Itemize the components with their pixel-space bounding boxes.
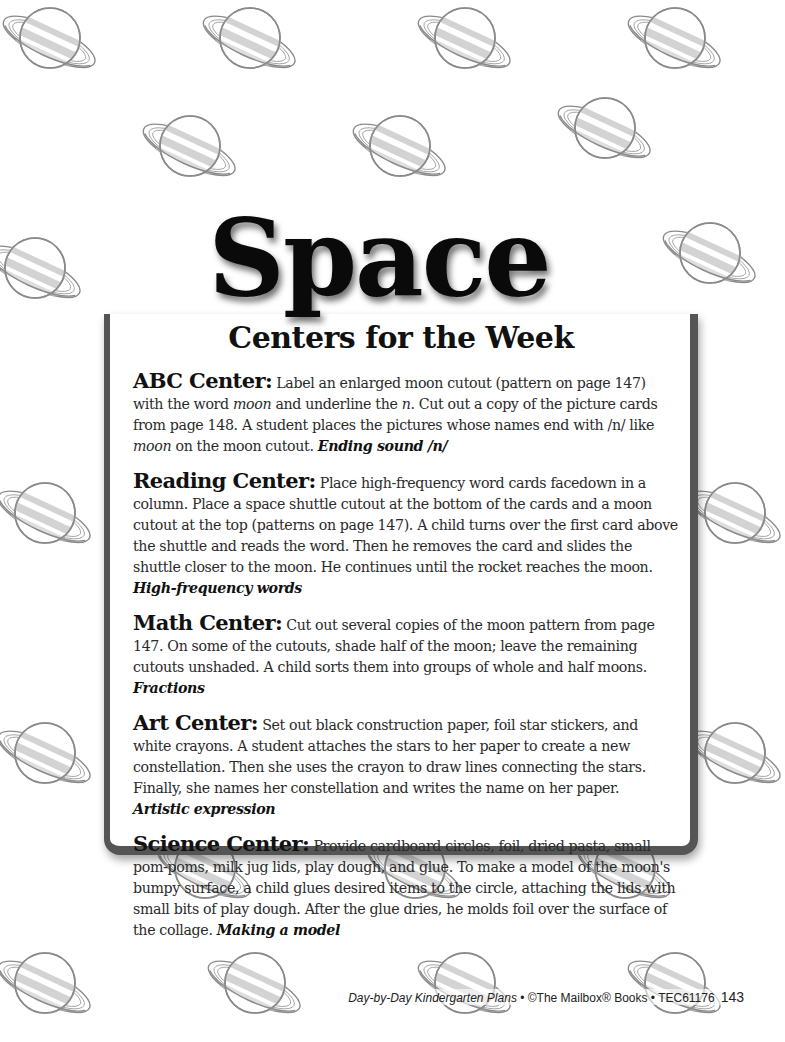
ringed-planet-icon — [0, 705, 100, 805]
ringed-planet-icon — [0, 465, 100, 565]
skill-label: Ending sound /n/ — [318, 438, 448, 454]
page-number: 143 — [721, 989, 744, 1005]
center-heading: Math Center: — [133, 610, 282, 635]
ringed-planet-icon — [195, 0, 305, 90]
abc-center: ABC Center: Label an enlarged moon cutou… — [133, 370, 678, 457]
art-center: Art Center: Set out black construction p… — [133, 712, 678, 820]
skill-label: High-frequency words — [133, 580, 302, 596]
reading-center: Reading Center: Place high-frequency wor… — [133, 470, 678, 599]
publisher: ©The Mailbox® Books — [528, 991, 648, 1005]
centers-list: ABC Center: Label an enlarged moon cutou… — [133, 370, 678, 954]
center-heading: Science Center: — [133, 831, 309, 856]
skill-label: Fractions — [133, 680, 205, 696]
page-footer: Day-by-Day Kindergarten Plans • ©The Mai… — [348, 989, 744, 1005]
book-title: Day-by-Day Kindergarten Plans — [348, 991, 517, 1005]
page-subtitle: Centers for the Week — [104, 320, 698, 355]
product-code: TEC61176 — [658, 991, 714, 1005]
skill-label: Artistic expression — [133, 801, 275, 817]
ringed-planet-icon — [410, 0, 520, 90]
page-title: Space — [0, 205, 758, 311]
skill-label: Making a model — [217, 922, 340, 938]
ringed-planet-icon — [550, 80, 660, 180]
ringed-planet-icon — [0, 935, 100, 1035]
science-center: Science Center: Provide cardboard circle… — [133, 833, 678, 941]
math-center: Math Center: Cut out several copies of t… — [133, 612, 678, 699]
ringed-planet-icon — [620, 0, 730, 90]
ringed-planet-icon — [345, 98, 455, 198]
center-heading: Art Center: — [133, 710, 258, 735]
ringed-planet-icon — [135, 98, 245, 198]
ringed-planet-icon — [0, 0, 105, 90]
center-heading: ABC Center: — [133, 368, 272, 393]
center-heading: Reading Center: — [133, 468, 316, 493]
